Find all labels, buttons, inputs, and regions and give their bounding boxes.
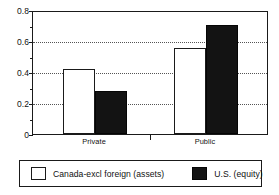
x-tick-label-private: Private	[82, 137, 106, 146]
y-minor-tick-0.3	[30, 89, 33, 90]
plot-area	[32, 11, 268, 135]
x-tick-label-public: Public	[195, 137, 216, 146]
legend-swatch-us-icon	[192, 167, 207, 180]
y-tick-label-0.8: 0.8	[17, 6, 29, 16]
y-tick-label-0.2: 0.2	[17, 99, 29, 109]
bar-private-canada	[63, 69, 95, 134]
y-minor-tick-0.1	[30, 120, 33, 121]
y-tick-label-0.4: 0.4	[17, 68, 29, 78]
y-major-tick-0	[29, 135, 33, 136]
legend-label-us: U.S. (equity)	[214, 169, 262, 179]
legend-swatch-canada-icon	[31, 167, 46, 180]
legend-label-canada: Canada-excl foreign (assets)	[53, 169, 164, 179]
y-minor-tick-0.7	[30, 27, 33, 28]
bar-public-us	[206, 25, 238, 134]
bar-chart-figure: 0.8 0.6 0.4 0.2 0 Private Public	[0, 0, 279, 195]
x-axis-group-separator	[150, 135, 151, 140]
y-major-tick-0.8	[29, 11, 33, 12]
legend: Canada-excl foreign (assets) U.S. (equit…	[19, 160, 262, 187]
bar-public-canada	[174, 48, 206, 134]
legend-entry-canada: Canada-excl foreign (assets)	[31, 167, 164, 180]
bar-private-us	[95, 91, 127, 134]
y-minor-tick-0.5	[30, 58, 33, 59]
legend-entry-us: U.S. (equity)	[192, 167, 262, 180]
y-tick-label-0.6: 0.6	[17, 37, 29, 47]
